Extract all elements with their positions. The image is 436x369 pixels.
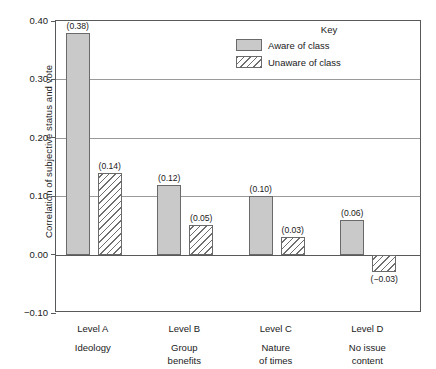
bar-value-label: (0.12) — [146, 173, 192, 183]
x-category-sublabel: No issuecontent — [322, 341, 412, 368]
x-category-label: Level BGroupbenefits — [139, 322, 229, 368]
y-tick-label: 0.00 — [8, 248, 48, 259]
y-tick-label: 0.20 — [8, 131, 48, 142]
x-category-name: Level C — [231, 322, 321, 336]
x-category-sublabel: Groupbenefits — [139, 341, 229, 368]
x-category-sublabel: Natureof times — [231, 341, 321, 368]
y-tick-mark — [51, 196, 56, 197]
chart-figure: Correlation of subjective status and vot… — [0, 0, 436, 369]
y-tick-label: 0.40 — [8, 15, 48, 26]
y-tick-label: 0.30 — [8, 73, 48, 84]
bar-value-label: (0.10) — [238, 184, 284, 194]
y-tick-mark — [51, 79, 56, 80]
bar-value-label: (0.03) — [270, 225, 316, 235]
y-axis-title: Correlation of subjective status and vot… — [43, 22, 54, 282]
bar — [189, 225, 213, 254]
bar — [98, 173, 122, 255]
bar — [372, 255, 396, 273]
y-tick-label: −0.10 — [8, 307, 48, 318]
y-tick-mark — [51, 137, 56, 138]
zero-line — [56, 255, 420, 256]
legend-title: Key — [252, 24, 406, 35]
bar — [281, 237, 305, 255]
x-category-name: Level D — [322, 322, 412, 336]
y-tick-mark — [51, 254, 56, 255]
bar — [340, 220, 364, 255]
bar-value-label: (0.38) — [55, 21, 101, 31]
bar-value-label: (−0.03) — [361, 274, 407, 284]
legend: Key Aware of class Unaware of class — [236, 24, 406, 73]
x-category-name: Level A — [48, 322, 138, 336]
bar — [66, 33, 90, 255]
legend-label-aware: Aware of class — [268, 40, 330, 51]
y-tick-label: 0.10 — [8, 190, 48, 201]
legend-swatch-hatched-icon — [236, 56, 262, 68]
gridline — [56, 138, 420, 139]
legend-item-unaware: Unaware of class — [236, 56, 406, 68]
gridline — [56, 79, 420, 80]
x-category-label: Level AIdeology — [48, 322, 138, 354]
y-tick-mark — [51, 313, 56, 314]
x-category-sublabel: Ideology — [48, 341, 138, 355]
legend-item-aware: Aware of class — [236, 39, 406, 51]
x-category-label: Level CNatureof times — [231, 322, 321, 368]
bar-value-label: (0.06) — [329, 208, 375, 218]
legend-label-unaware: Unaware of class — [268, 57, 341, 68]
x-category-name: Level B — [139, 322, 229, 336]
bar-value-label: (0.05) — [178, 213, 224, 223]
bar-value-label: (0.14) — [87, 161, 133, 171]
legend-swatch-solid-icon — [236, 39, 262, 51]
x-category-label: Level DNo issuecontent — [322, 322, 412, 368]
